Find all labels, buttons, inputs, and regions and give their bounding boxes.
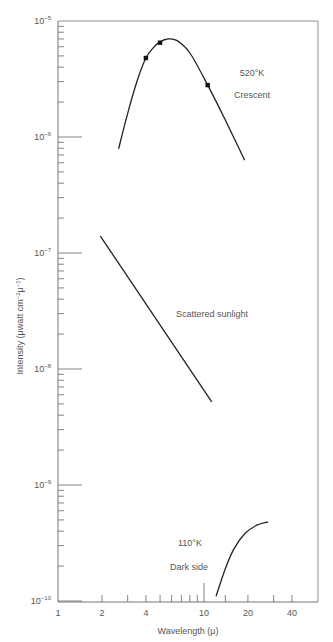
x-tick-label: 40 xyxy=(287,608,297,618)
annotation-dark-side-temperature: 110°K xyxy=(178,538,202,548)
series-dark-side-curve xyxy=(216,522,268,596)
annotation-dark-side: Dark side xyxy=(170,562,208,572)
y-tick-label: 10−10 xyxy=(31,595,52,606)
x-tick-label: 2 xyxy=(99,608,104,618)
y-tick-label: 10−8 xyxy=(34,363,52,374)
x-axis-ticks xyxy=(102,583,292,602)
data-point-marker xyxy=(158,41,162,45)
y-tick-label: 10−5 xyxy=(34,15,52,26)
y-tick-label: 10−9 xyxy=(34,479,52,490)
annotation-crescent-temperature: 520°K xyxy=(240,68,265,78)
x-tick-label: 1 xyxy=(55,608,60,618)
chart-canvas: 10−1010−910−810−710−610−5 124102040 520°… xyxy=(0,0,333,642)
y-axis-tick-labels: 10−1010−910−810−710−610−5 xyxy=(31,15,52,606)
x-tick-label: 4 xyxy=(143,608,148,618)
annotation-crescent: Crescent xyxy=(234,90,271,100)
x-tick-label: 10 xyxy=(199,608,209,618)
x-axis-tick-labels: 124102040 xyxy=(55,608,296,618)
x-axis-title: Wavelength (μ) xyxy=(158,626,219,636)
data-point-marker xyxy=(144,56,148,60)
y-axis-ticks xyxy=(58,26,82,601)
y-tick-label: 10−6 xyxy=(34,131,52,142)
y-tick-label: 10−7 xyxy=(34,247,52,258)
series-crescent-curve xyxy=(119,39,245,161)
annotation-scattered-sunlight: Scattered sunlight xyxy=(176,309,249,319)
x-tick-label: 20 xyxy=(243,608,253,618)
y-axis-title: Intensity (μwatt cm−2μ−1) xyxy=(15,277,25,374)
data-point-marker xyxy=(205,83,209,87)
